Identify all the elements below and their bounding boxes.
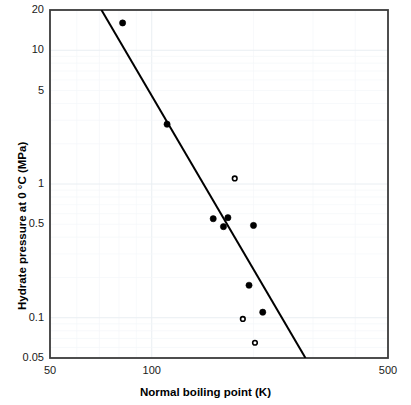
scatter-plot-svg — [0, 0, 411, 405]
data-point-filled — [246, 282, 252, 288]
data-point-filled — [164, 121, 170, 127]
chart-container: 2010510.50.10.05 50100500 Normal boiling… — [0, 0, 411, 405]
data-point-open — [253, 340, 258, 345]
y-tick-label: 5 — [2, 84, 44, 96]
y-tick-label: 20 — [2, 3, 44, 15]
data-point-filled — [210, 216, 216, 222]
data-point-filled — [260, 309, 266, 315]
data-point-open — [241, 317, 246, 322]
x-axis-title: Normal boiling point (K) — [0, 386, 411, 398]
data-point-open — [232, 176, 237, 181]
x-tick-label: 500 — [363, 364, 411, 376]
data-point-filled — [225, 215, 231, 221]
data-point-filled — [120, 20, 126, 26]
y-axis-title: Hydrate pressure at 0 °C (MPa) — [16, 142, 28, 310]
y-tick-label: 0.1 — [2, 311, 44, 323]
data-point-filled — [250, 222, 256, 228]
data-point-filled — [220, 224, 226, 230]
gridlines — [50, 10, 388, 358]
data-markers — [120, 20, 266, 345]
x-tick-label: 100 — [127, 364, 177, 376]
y-tick-label: 10 — [2, 43, 44, 55]
y-tick-label: 0.05 — [2, 351, 44, 363]
x-tick-label: 50 — [25, 364, 75, 376]
